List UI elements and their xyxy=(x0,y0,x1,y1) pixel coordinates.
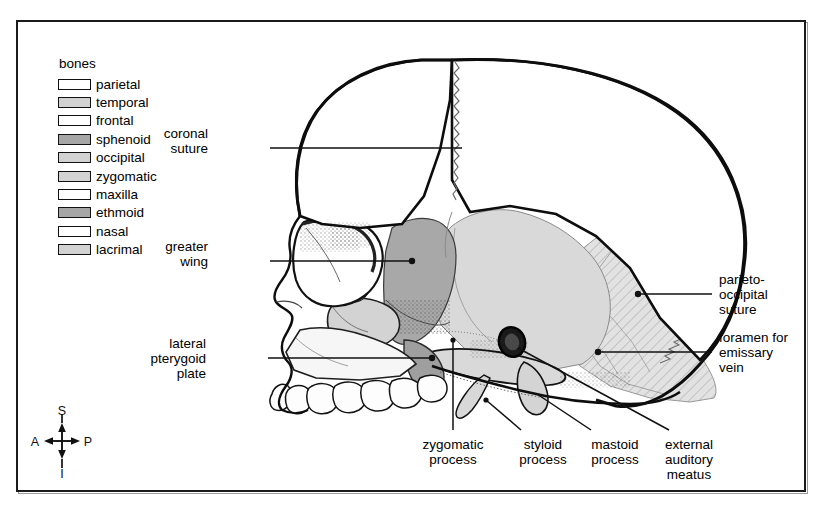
legend-item-zygomatic: zygomatic xyxy=(58,167,157,185)
callout-lateral-pterygoid-plate: lateral pterygoid plate xyxy=(128,336,206,382)
legend-label-parietal: parietal xyxy=(96,77,140,92)
legend-swatch-sphenoid xyxy=(58,134,91,145)
callout-foramen-line2: emissary xyxy=(719,345,811,360)
legend-label-temporal: temporal xyxy=(96,95,149,110)
legend-label-maxilla: maxilla xyxy=(96,187,138,202)
orientation-compass: S I A P xyxy=(26,404,98,478)
callout-coronal-suture: coronal suture xyxy=(128,126,208,156)
legend-item-nasal: nasal xyxy=(58,222,157,240)
legend-swatch-ethmoid xyxy=(58,207,91,218)
legend-label-ethmoid: ethmoid xyxy=(96,205,144,220)
callout-parieto-occipital-suture: parieto- occipital suture xyxy=(719,272,809,318)
leader-mastoid-process xyxy=(537,394,591,430)
callout-foramen-line1: foramen for xyxy=(719,330,811,345)
leader-external-meatus xyxy=(518,348,669,430)
legend-swatch-temporal xyxy=(58,97,91,108)
legend-item-maxilla: maxilla xyxy=(58,185,157,203)
callout-lateral-pterygoid-line3: plate xyxy=(128,366,206,381)
callout-external-meatus-line1: external xyxy=(650,437,728,452)
callout-greater-wing-line2: wing xyxy=(128,254,208,269)
callout-foramen-line3: vein xyxy=(719,360,811,375)
legend-item-temporal: temporal xyxy=(58,93,157,111)
callout-lateral-pterygoid-line1: lateral xyxy=(128,336,206,351)
callout-mastoid-process-line2: process xyxy=(578,452,652,467)
callout-mastoid-process-line1: mastoid xyxy=(578,437,652,452)
legend-item-parietal: parietal xyxy=(58,75,157,93)
compass-label-inferior: I xyxy=(60,467,63,478)
callout-foramen-emissary-vein: foramen for emissary vein xyxy=(719,330,811,376)
legend-swatch-occipital xyxy=(58,152,91,163)
bones-legend: bones parietal temporal frontal sphenoid… xyxy=(58,56,157,259)
figure-page: bones parietal temporal frontal sphenoid… xyxy=(0,0,822,512)
legend-swatch-frontal xyxy=(58,115,91,126)
leader-styloid-process xyxy=(486,400,521,430)
legend-item-ethmoid: ethmoid xyxy=(58,204,157,222)
callout-mastoid-process: mastoid process xyxy=(578,437,652,467)
callout-styloid-process-line1: styloid xyxy=(508,437,578,452)
callout-zygomatic-process-line2: process xyxy=(404,452,502,467)
legend-label-nasal: nasal xyxy=(96,224,128,239)
legend-swatch-nasal xyxy=(58,226,91,237)
compass-label-anterior: A xyxy=(31,435,40,449)
legend-swatch-lacrimal xyxy=(58,244,91,255)
callout-external-auditory-meatus: external auditory meatus xyxy=(650,437,728,483)
callout-lateral-pterygoid-line2: pterygoid xyxy=(128,351,206,366)
callout-parieto-occipital-line1: parieto- xyxy=(719,272,809,287)
legend-title: bones xyxy=(58,56,157,71)
callout-styloid-process-line2: process xyxy=(508,452,578,467)
callout-greater-wing: greater wing xyxy=(128,239,208,269)
callout-coronal-suture-line1: coronal xyxy=(128,126,208,141)
compass-label-superior: S xyxy=(58,404,66,418)
callout-zygomatic-process: zygomatic process xyxy=(404,437,502,467)
callout-parieto-occipital-line3: suture xyxy=(719,302,809,317)
legend-swatch-parietal xyxy=(58,79,91,90)
callout-coronal-suture-line2: suture xyxy=(128,141,208,156)
legend-swatch-maxilla xyxy=(58,189,91,200)
legend-swatch-zygomatic xyxy=(58,171,91,182)
callout-external-meatus-line2: auditory xyxy=(650,452,728,467)
callout-parieto-occipital-line2: occipital xyxy=(719,287,809,302)
callout-zygomatic-process-line1: zygomatic xyxy=(404,437,502,452)
legend-label-zygomatic: zygomatic xyxy=(96,169,157,184)
callout-external-meatus-line3: meatus xyxy=(650,467,728,482)
callout-greater-wing-line1: greater xyxy=(128,239,208,254)
compass-label-posterior: P xyxy=(84,435,92,449)
callout-styloid-process: styloid process xyxy=(508,437,578,467)
